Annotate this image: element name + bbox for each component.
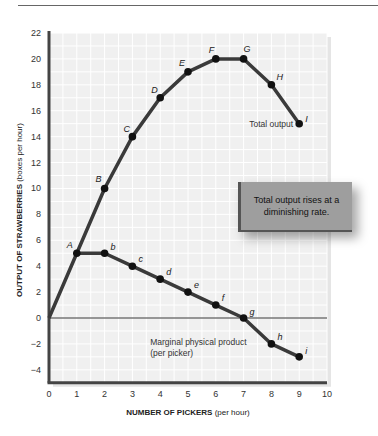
point-label: G — [244, 44, 251, 54]
data-point — [295, 120, 303, 128]
point-label: B — [96, 174, 102, 184]
y-tick-label: 18 — [31, 80, 41, 90]
point-label: A — [66, 240, 73, 250]
point-label: C — [123, 124, 130, 134]
y-tick-label: 10 — [31, 183, 41, 193]
y-tick-label: −2 — [31, 339, 41, 349]
y-tick-label: 2 — [36, 287, 41, 297]
point-label: h — [277, 332, 282, 342]
point-label: H — [276, 72, 283, 82]
y-tick-label: 4 — [36, 261, 41, 271]
mpp-label: Marginal physical product — [150, 337, 247, 347]
data-point — [240, 314, 248, 322]
x-tick-label: 9 — [297, 389, 302, 399]
data-point — [268, 81, 276, 89]
x-tick-label: 4 — [158, 389, 163, 399]
x-tick-label: 6 — [213, 389, 218, 399]
data-point — [156, 94, 164, 102]
y-tick-label: 14 — [31, 132, 41, 142]
data-point — [212, 55, 220, 63]
data-point — [240, 55, 248, 63]
y-tick-label: 16 — [31, 106, 41, 116]
data-point — [295, 353, 303, 361]
x-tick-label: 5 — [185, 389, 190, 399]
y-tick-label: 20 — [31, 54, 41, 64]
y-tick-label: 8 — [36, 209, 41, 219]
x-tick-label: 1 — [74, 389, 79, 399]
y-tick-label: 0 — [36, 313, 41, 323]
y-axis-title: OUTPUT OF STRAWBERRIES (boxes per hour) — [15, 123, 24, 297]
mpp-label-sub: (per picker) — [150, 348, 193, 358]
point-label: c — [138, 254, 143, 264]
y-tick-label: 22 — [31, 28, 41, 38]
point-label: F — [209, 45, 215, 55]
y-tick-label: 12 — [31, 158, 41, 168]
x-tick-label: 0 — [46, 389, 51, 399]
data-point — [101, 249, 109, 257]
point-label: b — [111, 242, 116, 252]
data-point — [129, 262, 137, 270]
y-tick-label: −4 — [31, 365, 41, 375]
data-point — [101, 185, 109, 193]
data-point — [212, 301, 220, 309]
x-tick-label: 3 — [130, 389, 135, 399]
data-point — [184, 68, 192, 76]
x-tick-label: 10 — [322, 389, 332, 399]
x-axis-title: NUMBER OF PICKERS (per hour) — [126, 408, 250, 417]
data-point — [73, 249, 81, 257]
annotation-text: Total output rises at a diminishing rate… — [245, 194, 348, 218]
point-label: D — [151, 85, 158, 95]
y-tick-label: 6 — [36, 235, 41, 245]
annotation-box: Total output rises at a diminishing rate… — [238, 182, 352, 232]
x-tick-label: 2 — [102, 389, 107, 399]
point-label: g — [250, 307, 255, 317]
data-point — [129, 133, 137, 141]
data-point — [184, 288, 192, 296]
point-label: E — [179, 58, 186, 68]
x-tick-label: 7 — [241, 389, 246, 399]
total-output-label: Total output — [249, 119, 294, 129]
point-label: e — [194, 280, 199, 290]
x-tick-label: 8 — [269, 389, 274, 399]
data-point — [156, 275, 164, 283]
data-point — [268, 340, 276, 348]
